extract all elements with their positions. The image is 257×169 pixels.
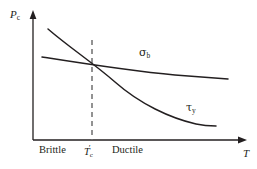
sigma-b-curve — [42, 57, 228, 79]
sigma-b-curve-label: σb — [139, 47, 150, 60]
x-axis-label-text: T — [243, 147, 249, 159]
sigma-subscript: b — [147, 51, 151, 60]
tau-y-curve-label: τy — [186, 102, 196, 115]
y-axis-label-text: P — [10, 8, 17, 20]
y-axis-label: Pc — [10, 9, 20, 22]
x-axis-label: T — [243, 148, 249, 159]
y-axis-arrowhead — [30, 10, 37, 19]
brittle-region-label: Brittle — [39, 145, 66, 156]
critical-temperature-label: Tc′ — [84, 145, 91, 159]
ductile-region-label: Ductile — [112, 145, 143, 156]
tc-prime: ′ — [89, 144, 91, 153]
figure-container: Pc T σb τy Brittle Tc′ Ductile — [0, 0, 257, 169]
sigma-symbol: σ — [139, 46, 147, 59]
y-axis-label-subscript: c — [17, 13, 20, 22]
tau-subscript: y — [192, 106, 196, 115]
x-axis-arrowhead — [238, 137, 247, 144]
